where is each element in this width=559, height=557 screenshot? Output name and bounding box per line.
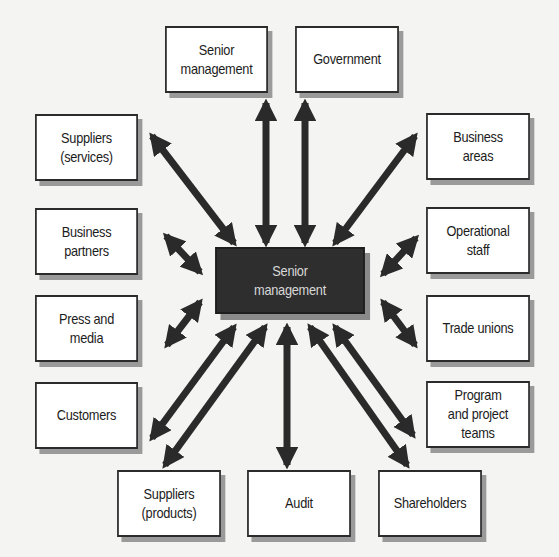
arrow-suppliers-services — [152, 136, 234, 243]
label-center: Senior management — [254, 262, 326, 300]
box-business-areas: Business areas — [426, 113, 530, 180]
label-suppliers-products: Suppliers (products) — [142, 485, 197, 523]
arrow-trade-unions — [383, 302, 415, 345]
box-suppliers-services: Suppliers (services) — [35, 114, 138, 181]
label-program-project-teams: Program and project teams — [448, 386, 508, 443]
label-senior-management: Senior management — [181, 41, 253, 79]
label-operational-staff: Operational staff — [446, 222, 509, 260]
box-press-media: Press and media — [35, 295, 138, 362]
box-senior-management: Senior management — [165, 26, 268, 93]
box-customers: Customers — [35, 382, 138, 449]
label-business-areas: Business areas — [453, 128, 503, 166]
label-audit: Audit — [285, 494, 313, 513]
label-shareholders: Shareholders — [394, 494, 467, 513]
label-customers: Customers — [57, 406, 116, 425]
arrow-business-partners — [166, 236, 200, 272]
arrow-operational-staff — [383, 238, 416, 274]
box-suppliers-products: Suppliers (products) — [117, 470, 221, 537]
box-audit: Audit — [247, 470, 351, 537]
box-business-partners: Business partners — [35, 208, 138, 275]
arrow-business-areas — [335, 136, 415, 243]
box-shareholders: Shareholders — [378, 470, 482, 537]
label-suppliers-services: Suppliers (services) — [60, 129, 113, 167]
stakeholder-diagram: Senior management Government Suppliers (… — [0, 0, 559, 557]
arrow-press-media — [167, 302, 200, 345]
box-government: Government — [295, 26, 399, 93]
label-trade-unions: Trade unions — [443, 319, 514, 338]
box-operational-staff: Operational staff — [426, 207, 530, 274]
label-business-partners: Business partners — [62, 223, 112, 261]
box-center-senior-management: Senior management — [215, 247, 365, 314]
label-press-media: Press and media — [59, 310, 114, 348]
label-government: Government — [313, 50, 381, 69]
box-trade-unions: Trade unions — [426, 295, 530, 362]
box-program-project-teams: Program and project teams — [426, 381, 530, 448]
arrow-shareholders — [310, 327, 407, 465]
